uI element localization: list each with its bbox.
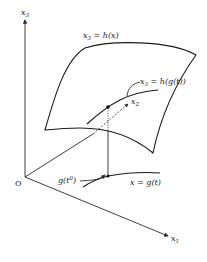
base-point — [107, 175, 110, 178]
initial-point-label: g(t0) — [58, 175, 76, 185]
base-curve-label: x = g(t) — [130, 178, 161, 187]
initial-point-leader — [80, 175, 105, 181]
surface-curve-label: x3 = h(g(t)) — [140, 77, 186, 87]
x2-axis-visible — [25, 134, 93, 177]
x2-axis-label: x2 — [131, 97, 140, 107]
surface-outline — [45, 43, 196, 153]
surface-curve-diagram: x3 x1 x2 O x3 = h(x) x3 = h(g(t)) x = g(… — [0, 0, 207, 262]
origin-label: O — [15, 179, 22, 188]
surface-curve — [87, 90, 158, 124]
x3-axis-label: x3 — [21, 8, 30, 18]
x1-axis-label: x1 — [171, 234, 179, 244]
surface-label: x3 = h(x) — [83, 31, 119, 41]
surface-curve-leader — [127, 82, 140, 96]
